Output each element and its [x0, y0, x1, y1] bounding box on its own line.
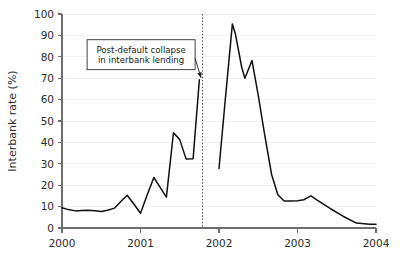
- interbank-rate-line-chart: 0102030405060708090100 20002001200220032…: [0, 0, 400, 267]
- y-tick-label-70: 70: [41, 72, 54, 84]
- x-tick-label-2001: 2001: [127, 237, 154, 249]
- y-axis-ticks: 0102030405060708090100: [34, 8, 62, 234]
- y-tick-label-90: 90: [41, 29, 54, 41]
- x-tick-label-2003: 2003: [284, 237, 311, 249]
- y-tick-label-20: 20: [41, 179, 54, 191]
- y-tick-label-0: 0: [47, 222, 54, 234]
- x-axis-ticks: 20002001200220032004: [49, 228, 390, 249]
- chart-container: 0102030405060708090100 20002001200220032…: [0, 0, 400, 267]
- y-axis-title: Interbank rate (%): [6, 70, 19, 171]
- annotation-line-1: Post-default collapse: [96, 45, 185, 55]
- y-tick-label-50: 50: [41, 115, 54, 127]
- series-0-segment-post-default: [219, 24, 376, 224]
- x-tick-label-2002: 2002: [206, 237, 233, 249]
- y-tick-label-10: 10: [41, 200, 54, 212]
- annotation-line-2: in interbank lending: [98, 55, 184, 65]
- x-tick-label-2004: 2004: [363, 237, 390, 249]
- y-tick-label-40: 40: [41, 136, 54, 148]
- y-tick-label-60: 60: [41, 93, 54, 105]
- y-tick-label-80: 80: [41, 51, 54, 63]
- y-tick-label-30: 30: [41, 158, 54, 170]
- y-tick-label-100: 100: [34, 8, 54, 20]
- annotation-arrow-head: [197, 72, 201, 78]
- chart-annotations: Post-default collapsein interbank lendin…: [87, 40, 202, 78]
- x-tick-label-2000: 2000: [49, 237, 76, 249]
